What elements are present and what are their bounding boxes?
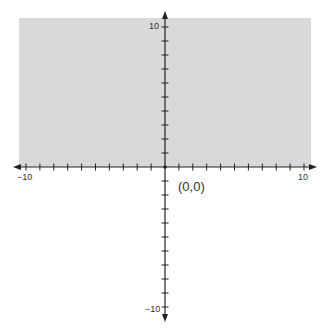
x-max-label: 10 <box>298 173 308 182</box>
coordinate-plane <box>0 0 323 328</box>
y-min-label: −10 <box>145 305 160 314</box>
y-axis-down-arrow-icon <box>162 314 168 322</box>
y-axis-up-arrow-icon <box>162 11 168 19</box>
origin-label: (0,0) <box>178 180 205 193</box>
origin-point <box>163 165 167 169</box>
x-min-label: −10 <box>17 173 32 182</box>
y-max-label: 10 <box>149 22 159 31</box>
x-axis-left-arrow-icon <box>13 164 21 170</box>
x-axis-right-arrow-icon <box>309 164 317 170</box>
